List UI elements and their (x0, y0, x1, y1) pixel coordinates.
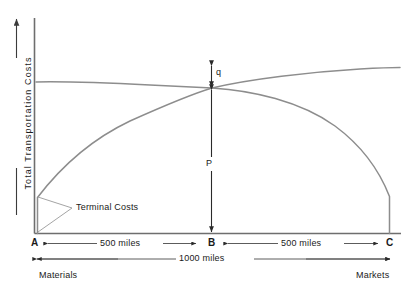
y-axis-title: Total Transportation Costs (23, 48, 33, 198)
terminal-costs-leader-upper (38, 197, 72, 208)
left-span-label: 500 miles (100, 238, 140, 248)
point-c-label: C (386, 237, 393, 248)
diagram-canvas: Total Transportation Costs Terminal Cost… (0, 0, 418, 287)
right-span-label: 500 miles (281, 238, 321, 248)
materials-label: Materials (39, 270, 77, 280)
terminal-costs-leader-lower (38, 208, 72, 232)
markets-label: Markets (356, 270, 389, 280)
terminal-costs-label: Terminal Costs (76, 202, 138, 212)
point-a-label: A (31, 237, 38, 248)
q-label: q (216, 67, 221, 77)
p-label: P (206, 158, 212, 168)
total-span-label: 1000 miles (179, 253, 225, 263)
point-b-label: B (208, 237, 215, 248)
